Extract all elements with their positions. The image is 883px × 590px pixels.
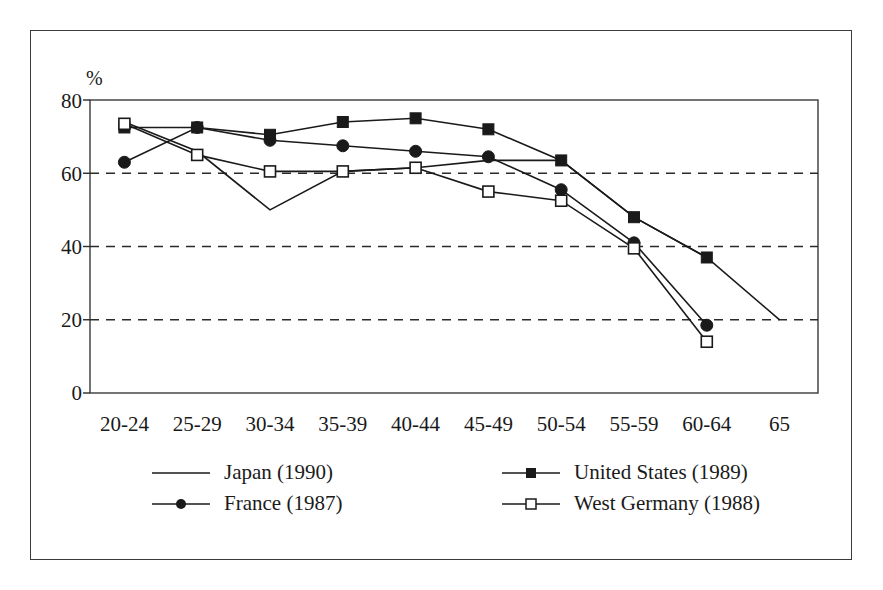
data-point (265, 166, 276, 177)
legend-label: United States (1989) (574, 462, 748, 483)
legend-entry[interactable]: Japan (1990) (150, 462, 500, 483)
data-point (337, 116, 348, 127)
legend-entry[interactable]: United States (1989) (500, 462, 840, 483)
data-point (192, 122, 203, 133)
legend-label: West Germany (1988) (574, 493, 760, 514)
data-point (192, 149, 203, 160)
data-point (410, 162, 421, 173)
data-point (701, 336, 712, 347)
legend-entry[interactable]: France (1987) (150, 493, 500, 514)
data-point (337, 166, 348, 177)
data-point (556, 155, 567, 166)
series-line-0 (124, 122, 779, 320)
x-tick-label-9: 65 (730, 414, 830, 435)
data-point (555, 184, 567, 196)
legend-marker-icon (500, 495, 562, 513)
series-markers (118, 113, 712, 347)
legend-label: France (1987) (224, 493, 342, 514)
figure-root: % 0 20 40 60 80 20-2425-2930-3435-3940-4… (0, 0, 883, 590)
legend-marker-icon (500, 464, 562, 482)
y-axis-ticks (83, 100, 90, 393)
plot-frame (90, 100, 818, 393)
data-point (701, 319, 713, 331)
gridlines (90, 173, 818, 320)
legend-marker-icon (150, 464, 212, 482)
data-point (118, 156, 130, 168)
data-point (410, 113, 421, 124)
legend-entry[interactable]: West Germany (1988) (500, 493, 840, 514)
series-lines (124, 118, 779, 341)
data-point (119, 118, 130, 129)
data-point (265, 129, 276, 140)
data-point (482, 151, 494, 163)
series-line-2 (124, 118, 706, 257)
data-point (483, 124, 494, 135)
data-point (483, 186, 494, 197)
data-point (701, 252, 712, 263)
legend-label: Japan (1990) (224, 462, 333, 483)
data-point (410, 145, 422, 157)
data-point (629, 243, 640, 254)
data-point (337, 140, 349, 152)
chart-legend: Japan (1990)United States (1989)France (… (150, 462, 840, 514)
legend-marker-icon (150, 495, 212, 513)
data-point (629, 212, 640, 223)
data-point (556, 195, 567, 206)
